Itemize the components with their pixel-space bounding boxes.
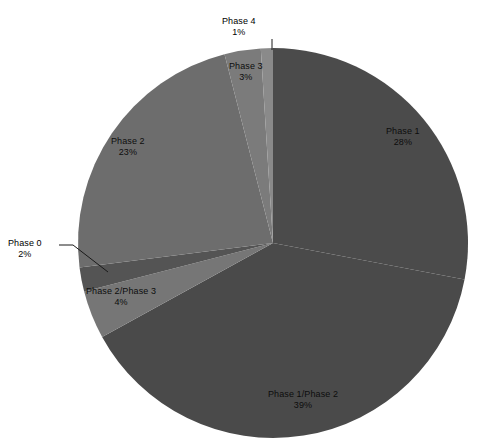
pie-chart-canvas [0, 0, 488, 444]
pie-chart: Phase 128%Phase 1/Phase 239%Phase 2/Phas… [0, 0, 488, 444]
pie-slice[interactable] [273, 48, 468, 280]
pie-slices-group [78, 48, 468, 438]
